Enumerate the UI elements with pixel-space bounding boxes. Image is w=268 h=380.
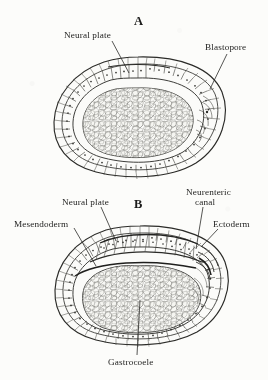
leader-blastopore-a: [210, 54, 227, 89]
label-neurenteric-canal-line1: Neurenteric: [186, 187, 231, 197]
label-ectoderm-b: Ectoderm: [213, 219, 250, 229]
label-blastopore-a: Blastopore: [205, 42, 246, 52]
label-neural-plate-b: Neural plate: [62, 197, 109, 207]
embryo-a-blastopore-pore: [206, 111, 208, 113]
panel-letter-a: A: [134, 14, 143, 29]
label-neurenteric-canal-line2: canal: [195, 197, 215, 207]
embryo-a-yolk-mass-shading: [83, 88, 193, 158]
panel-letter-b: B: [134, 197, 142, 212]
label-mesendoderm-b: Mesendoderm: [14, 219, 68, 229]
embryo-a: [54, 57, 225, 179]
label-gastrocoele-b: Gastrocoele: [108, 357, 154, 367]
label-neural-plate-a: Neural plate: [64, 30, 111, 40]
embryo-b: [55, 226, 228, 347]
embryo-figure: A B Neural plate Blastopore Neural plate…: [0, 0, 268, 380]
